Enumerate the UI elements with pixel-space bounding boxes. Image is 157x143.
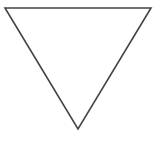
diagram-canvas	[0, 0, 157, 143]
inverted-triangle-icon	[0, 0, 157, 143]
triangle-shape	[5, 8, 151, 129]
